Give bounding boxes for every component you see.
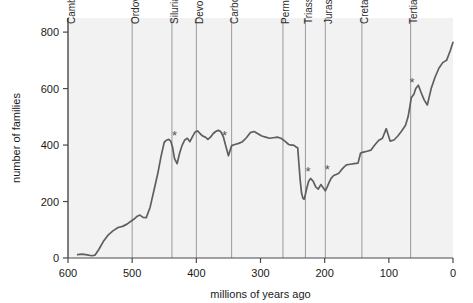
period-label-ordovician: Ordovician: [130, 0, 141, 24]
period-label-cretaceous: Cretaceous: [359, 0, 370, 24]
period-label-devonian: Devonian: [194, 0, 205, 24]
y-tick-label: 0: [53, 252, 59, 264]
x-tick-label: 500: [123, 267, 141, 279]
period-label-permian: Permian: [280, 0, 291, 24]
extinction-marker-triassic: *: [325, 162, 330, 177]
x-axis-title: millions of years ago: [210, 288, 310, 300]
x-tick-label: 600: [59, 267, 77, 279]
x-tick-label: 0: [450, 267, 456, 279]
extinction-marker-devonian: *: [222, 128, 227, 143]
y-tick-label: 600: [41, 83, 59, 95]
y-tick-label: 800: [41, 26, 59, 38]
period-label-carboniferous: Carboniferous: [229, 0, 240, 24]
x-tick-label: 200: [315, 267, 333, 279]
period-label-tertiary: Tertiary: [408, 0, 419, 24]
chart-figure: 6005004003002001000 0200400600800 ***** …: [0, 0, 473, 303]
period-label-cambrian: Cambrian: [66, 0, 77, 24]
x-tick-label: 100: [380, 267, 398, 279]
y-tick-label: 200: [41, 196, 59, 208]
y-tick-label: 400: [41, 139, 59, 151]
period-label-jurassic: Jurassic: [323, 0, 334, 24]
period-label-silurian: Silurian: [169, 0, 180, 24]
x-tick-label: 300: [251, 267, 269, 279]
diversity-line-chart: 6005004003002001000 0200400600800 ***** …: [0, 0, 473, 303]
period-label-triassic: Triassic: [303, 0, 314, 24]
x-tick-label: 400: [187, 267, 205, 279]
extinction-marker-cretaceous: *: [409, 75, 414, 90]
y-axis-title: number of families: [10, 93, 22, 183]
extinction-marker-ordovician: *: [172, 128, 177, 143]
extinction-marker-permian: *: [305, 164, 310, 179]
